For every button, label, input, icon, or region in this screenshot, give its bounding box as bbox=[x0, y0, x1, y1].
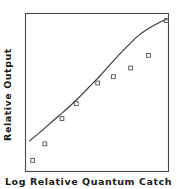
data-point bbox=[43, 142, 47, 146]
x-axis-title: Log Relative Quantum Catch bbox=[0, 176, 177, 187]
fitted-curve-path bbox=[30, 19, 167, 141]
scatter-plot bbox=[0, 0, 177, 189]
data-point bbox=[147, 53, 151, 57]
data-point bbox=[74, 102, 78, 106]
data-point bbox=[60, 117, 64, 121]
data-point bbox=[96, 81, 100, 85]
plot-border bbox=[26, 14, 169, 172]
plot-frame bbox=[26, 14, 169, 172]
data-point-group bbox=[31, 19, 169, 163]
data-point bbox=[112, 75, 116, 79]
data-point bbox=[31, 159, 35, 163]
chart-figure: Log Relative Quantum Catch Relative Outp… bbox=[0, 0, 177, 189]
data-point bbox=[129, 66, 133, 70]
fitted-curve-group bbox=[30, 19, 167, 141]
y-axis-title: Relative Output bbox=[2, 0, 16, 189]
